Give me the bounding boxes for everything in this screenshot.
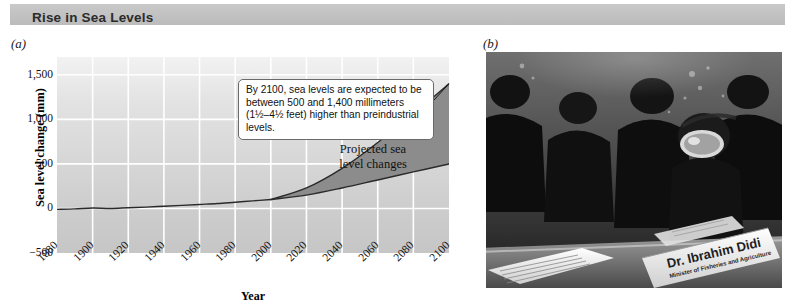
y-tick-label: 1,500 bbox=[7, 68, 53, 80]
y-tick-label: 1,000 bbox=[7, 112, 53, 124]
dive-mask bbox=[680, 130, 724, 158]
projection-label-line2: level changes bbox=[308, 157, 438, 172]
page-title: Rise in Sea Levels bbox=[32, 10, 153, 25]
y-tick-label: 500 bbox=[7, 157, 53, 169]
projection-band-label: Projected sea level changes bbox=[308, 142, 438, 172]
callout-annotation: By 2100, sea levels are expected to be b… bbox=[238, 79, 434, 140]
x-axis-ticks: 1880190019201940196019802000202020402060… bbox=[57, 253, 449, 293]
underwater-cabinet-photo: Dr. Ibrahim Didi Minister of Fisheries a… bbox=[486, 52, 782, 288]
photo-image: Dr. Ibrahim Didi Minister of Fisheries a… bbox=[486, 52, 782, 288]
projection-label-line1: Projected sea bbox=[308, 142, 438, 157]
header-band: Rise in Sea Levels bbox=[10, 4, 785, 25]
y-axis-ticks: 1,5001,0005000−500 bbox=[2, 57, 53, 253]
sea-level-chart: Sea level change (mm) 1,5001,0005000−500… bbox=[0, 30, 470, 308]
panel-b-label: (b) bbox=[483, 36, 498, 52]
x-axis-title: Year bbox=[57, 289, 449, 304]
y-tick-label: 0 bbox=[7, 201, 53, 213]
